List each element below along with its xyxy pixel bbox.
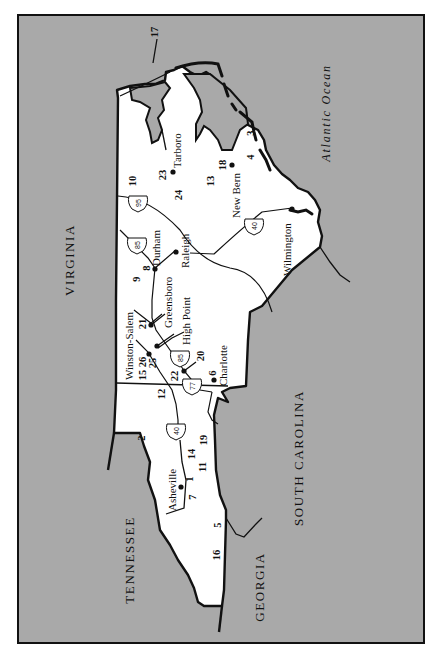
- site-2: 2: [136, 435, 147, 440]
- site-8: 8: [141, 265, 152, 270]
- site-18: 18: [217, 160, 228, 171]
- svg-text:95: 95: [135, 199, 142, 207]
- label-wilmington: Wilmington: [281, 223, 293, 276]
- city-dot-asheville: [178, 484, 183, 489]
- svg-text:40: 40: [173, 427, 180, 435]
- site-6: 6: [207, 370, 218, 375]
- site-15: 15: [137, 370, 148, 381]
- city-dot-tarboro: [170, 169, 175, 174]
- north-carolina-map: 95 85 40 85 77 40 VIRGINIA TENNESSEE GEO: [0, 0, 430, 655]
- site-5: 5: [212, 522, 223, 527]
- svg-text:40: 40: [251, 222, 258, 230]
- city-dot-wilmington: [289, 206, 294, 211]
- svg-text:77: 77: [189, 382, 196, 390]
- label-raleigh: Raleigh: [179, 233, 191, 268]
- site-20: 20: [195, 351, 206, 362]
- label-georgia: GEORGIA: [252, 552, 267, 622]
- label-charlotte: Charlotte: [217, 345, 229, 386]
- site-13: 13: [205, 176, 216, 187]
- site-19: 19: [198, 435, 209, 446]
- label-tennessee: TENNESSEE: [122, 516, 137, 603]
- city-dot-new-bern: [229, 162, 234, 167]
- label-south-carolina: SOUTH CAROLINA: [291, 390, 306, 526]
- city-dot-charlotte: [211, 377, 216, 382]
- site-21: 21: [137, 319, 148, 330]
- label-high-point: High Point: [180, 297, 192, 345]
- svg-text:85: 85: [134, 241, 141, 249]
- site-1: 1: [184, 476, 195, 481]
- svg-text:85: 85: [177, 354, 184, 362]
- site-12: 12: [156, 389, 167, 400]
- site-3: 3: [245, 130, 256, 135]
- label-atlantic-ocean: Atlantic Ocean: [319, 64, 333, 163]
- site-9: 9: [131, 276, 142, 281]
- site-24: 24: [173, 189, 184, 200]
- site-4: 4: [245, 154, 256, 160]
- city-dot-winston-salem: [146, 351, 151, 356]
- label-virginia: VIRGINIA: [62, 224, 77, 296]
- site-11: 11: [197, 462, 208, 472]
- site-23: 23: [157, 170, 168, 181]
- site-7: 7: [187, 494, 198, 499]
- label-durham: Durham: [150, 230, 162, 266]
- label-greensboro: Greensboro: [162, 276, 174, 328]
- label-new-bern: New Bern: [230, 173, 242, 218]
- site-10: 10: [127, 176, 138, 187]
- site-16: 16: [211, 550, 222, 561]
- site-17: 17: [149, 27, 160, 38]
- city-dot-durham: [152, 266, 157, 271]
- city-dot-raleigh: [173, 249, 178, 254]
- site-22: 22: [169, 371, 180, 382]
- site-25: 25: [147, 358, 158, 369]
- label-winston-salem: Winston-Salem: [123, 312, 135, 380]
- label-tarboro: Tarboro: [171, 133, 183, 168]
- label-asheville: Asheville: [166, 469, 178, 511]
- site-14: 14: [186, 448, 197, 459]
